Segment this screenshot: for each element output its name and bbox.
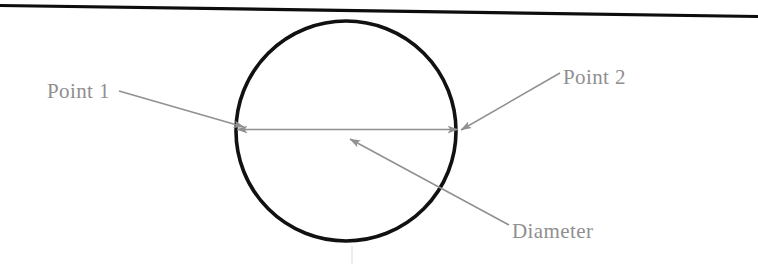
circle-outline [236, 21, 456, 241]
point-1-leader [119, 91, 244, 127]
top-border-line [0, 6, 758, 17]
label-point-1: Point 1 [47, 79, 110, 104]
figure-svg [0, 0, 758, 264]
label-diameter: Diameter [512, 219, 593, 244]
label-point-2: Point 2 [563, 65, 626, 90]
figure-canvas: Point 1 Point 2 Diameter [0, 0, 758, 264]
diameter-leader [350, 139, 509, 225]
point-2-leader [461, 73, 560, 130]
